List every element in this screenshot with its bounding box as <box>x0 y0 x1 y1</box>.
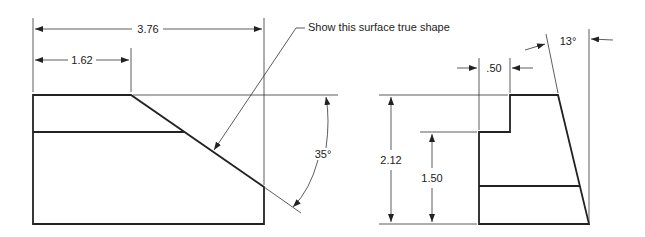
dimension-label: .50 <box>486 62 501 74</box>
side-view-outline <box>479 95 589 224</box>
leader-note-text: Show this surface true shape <box>308 21 450 33</box>
side-view: .50 2.12 1.50 13° <box>379 29 613 224</box>
dimension-label: 1.62 <box>71 54 92 66</box>
dimension-overall-width: 3.76 <box>35 23 262 35</box>
extension-line <box>546 34 558 93</box>
front-view-outline <box>33 95 264 224</box>
angle-label: 13° <box>560 35 577 47</box>
front-view: 3.76 1.62 35° Show this surface true sha… <box>33 18 450 224</box>
extension-line <box>264 187 301 213</box>
dimension-step-height: 1.50 <box>421 134 442 222</box>
dimension-label: 1.50 <box>421 172 442 184</box>
dimension-step-width: .50 <box>457 62 533 74</box>
leader-note: Show this surface true shape <box>214 21 450 150</box>
dimension-top-width: 1.62 <box>35 54 129 66</box>
dimension-label: 3.76 <box>137 23 158 35</box>
dimension-angle: 35° <box>293 97 331 207</box>
dimension-label: 2.12 <box>380 154 401 166</box>
dimension-taper-angle: 13° <box>525 35 613 50</box>
angle-label: 35° <box>315 148 332 160</box>
technical-drawing: 3.76 1.62 35° Show this surface true sha… <box>0 0 645 237</box>
dimension-overall-height: 2.12 <box>380 97 401 222</box>
